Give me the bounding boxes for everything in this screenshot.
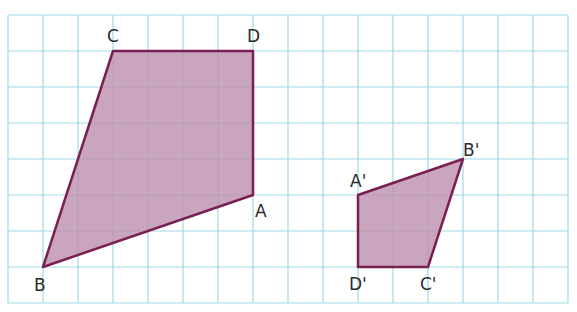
vertex-label: B'	[463, 140, 479, 160]
vertex-label: A'	[350, 171, 366, 191]
vertex-label: A	[255, 201, 267, 221]
diagram-canvas: ABCDA'B'C'D'	[0, 0, 577, 312]
vertex-label: D'	[349, 274, 367, 294]
vertex-label: D	[247, 26, 260, 46]
grid-diagram: ABCDA'B'C'D'	[0, 0, 577, 312]
quadrilateral-image	[358, 159, 463, 267]
vertex-label: C'	[420, 274, 437, 294]
vertex-label: C	[107, 26, 119, 46]
vertex-label: B	[34, 275, 46, 295]
